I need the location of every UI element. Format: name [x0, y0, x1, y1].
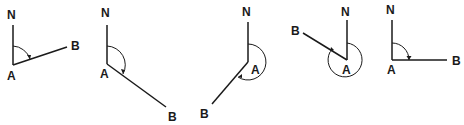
bearings-figure: N A B N A B N A B N A B N A	[0, 0, 464, 125]
bearing-line	[107, 64, 166, 107]
arrow-head-icon	[27, 55, 31, 59]
label-n: N	[101, 6, 110, 20]
label-a: A	[100, 67, 109, 81]
label-n: N	[7, 8, 16, 22]
label-n: N	[386, 3, 395, 17]
bearing-line	[212, 62, 248, 104]
diagram-2: N A B	[100, 6, 177, 124]
diagram-3: N A B	[200, 5, 266, 121]
label-b: B	[291, 24, 300, 38]
label-a: A	[342, 63, 351, 77]
label-n: N	[242, 5, 251, 19]
angle-arc	[13, 46, 30, 59]
label-b: B	[71, 39, 80, 53]
angle-arc	[392, 43, 409, 60]
label-a: A	[251, 63, 260, 77]
bearing-line	[13, 47, 67, 65]
diagram-5: N A B	[386, 3, 461, 77]
diagram-4: N A B	[291, 5, 362, 77]
label-a: A	[7, 69, 16, 83]
label-n: N	[341, 5, 350, 19]
label-b: B	[200, 107, 209, 121]
diagram-1: N A B	[7, 8, 80, 83]
bearing-line	[303, 33, 347, 60]
label-b: B	[452, 54, 461, 68]
label-b: B	[168, 110, 177, 124]
label-a: A	[387, 63, 396, 77]
